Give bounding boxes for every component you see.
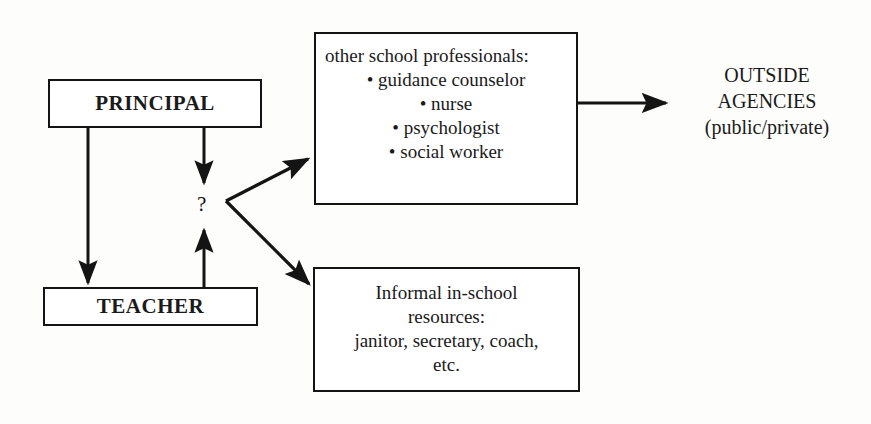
node-professionals-item-2: • psychologist <box>392 116 499 140</box>
node-informal-resources[interactable]: Informal in-school resources: janitor, s… <box>313 267 580 392</box>
node-professionals-heading: other school professionals: <box>325 44 529 68</box>
diagram-canvas: PRINCIPAL TEACHER other school professio… <box>0 0 871 424</box>
node-professionals-item-0: • guidance counselor <box>367 68 526 92</box>
node-informal-line-1: Informal in-school <box>376 281 518 305</box>
node-teacher-label: TEACHER <box>97 294 204 319</box>
node-teacher[interactable]: TEACHER <box>43 287 258 326</box>
node-outside-agencies[interactable]: OUTSIDE AGENCIES (public/private) <box>672 62 862 140</box>
question-mark-annotation: ? <box>197 192 206 217</box>
node-other-school-professionals[interactable]: other school professionals: • guidance c… <box>314 32 578 205</box>
node-informal-line-3: janitor, secretary, coach, <box>354 329 538 353</box>
node-outside-line-2: AGENCIES <box>672 88 862 114</box>
edge-question-to-informal <box>226 201 309 284</box>
node-principal-label: PRINCIPAL <box>95 91 215 116</box>
node-professionals-item-1: • nurse <box>420 92 473 116</box>
node-informal-line-2: resources: <box>408 305 485 329</box>
node-outside-line-3: (public/private) <box>672 114 862 140</box>
node-principal[interactable]: PRINCIPAL <box>48 79 262 128</box>
node-outside-line-1: OUTSIDE <box>672 62 862 88</box>
node-informal-line-4: etc. <box>433 353 460 377</box>
node-professionals-item-3: • social worker <box>389 140 503 164</box>
edge-question-to-professionals <box>226 159 308 201</box>
